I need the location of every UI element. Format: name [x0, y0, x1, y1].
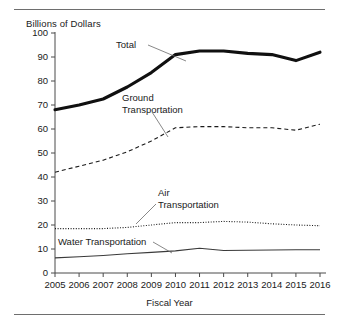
x-tick-label: 2007 [93, 279, 114, 290]
series-label-ground: GroundTransportation [122, 92, 183, 137]
series-label-water: Water Transportation [58, 236, 172, 253]
series-line-air-transportation [55, 221, 320, 228]
series-line-water-transportation [55, 248, 320, 258]
x-tick-label: 2010 [165, 279, 186, 290]
x-tick-label: 2005 [44, 279, 65, 290]
y-tick-label: 80 [37, 75, 48, 86]
y-tick-label: 100 [32, 27, 48, 38]
x-tick-label: 2006 [69, 279, 90, 290]
series-label-text: Air [158, 187, 170, 198]
y-tick-label: 10 [37, 243, 48, 254]
x-tick-label: 2015 [285, 279, 306, 290]
x-tick-label: 2011 [189, 279, 209, 290]
series-line-total [55, 51, 320, 110]
series-label-air: AirTransportation [136, 187, 219, 224]
y-tick-label: 70 [37, 99, 48, 110]
chart-plot-area: 0102030405060708090100 20052006200720082… [0, 0, 339, 325]
chart-figure: Billions of Dollars Fiscal Year 01020304… [0, 0, 339, 325]
x-tick-label: 2013 [237, 279, 258, 290]
y-tick-label: 50 [37, 147, 48, 158]
y-tick-label: 60 [37, 123, 48, 134]
y-tick-label: 20 [37, 219, 48, 230]
series-annotations-layer: TotalGroundTransportationAirTransportati… [58, 39, 219, 253]
data-series-layer [55, 51, 320, 258]
x-tick-label: 2012 [213, 279, 234, 290]
series-line-ground-transportation [55, 124, 320, 172]
y-tick-label: 0 [43, 267, 48, 278]
y-tick-label: 40 [37, 171, 48, 182]
series-label-total: Total [116, 39, 186, 61]
series-label-text: Total [116, 39, 136, 50]
x-tick-label: 2014 [261, 279, 282, 290]
x-tick-label: 2008 [117, 279, 138, 290]
series-label-leader-line [136, 204, 156, 224]
x-axis-ticks: 2005200620072008200920102011201220132014… [44, 273, 330, 290]
y-axis-ticks: 0102030405060708090100 [32, 27, 55, 278]
y-tick-label: 30 [37, 195, 48, 206]
series-label-leader-line [152, 112, 168, 137]
series-label-text: Ground [122, 92, 154, 103]
series-label-text: Water Transportation [58, 236, 146, 247]
series-label-text: Transportation [158, 199, 219, 210]
y-tick-label: 90 [37, 51, 48, 62]
x-tick-label: 2009 [141, 279, 162, 290]
x-tick-label: 2016 [309, 279, 330, 290]
